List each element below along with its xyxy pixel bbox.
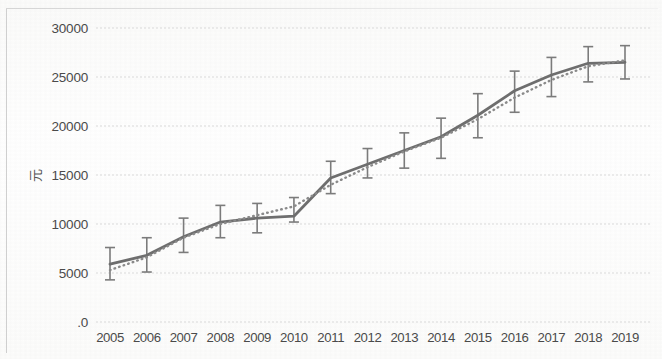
x-axis-tick-label: 2017 xyxy=(538,330,566,345)
x-axis-tick-label: 2018 xyxy=(574,330,602,345)
x-axis-tick-label: 2012 xyxy=(354,330,382,345)
y-axis-tick-label: 25000 xyxy=(0,70,88,85)
y-axis-tick-label: 30000 xyxy=(0,21,88,36)
chart-plot-area: 元 30000250002000015000100005000.0 200520… xyxy=(0,0,662,359)
chart-svg xyxy=(0,0,662,359)
y-axis-tick-label: 5000 xyxy=(0,266,88,281)
x-axis-tick-label: 2014 xyxy=(427,330,455,345)
x-axis-tick-label: 2010 xyxy=(280,330,308,345)
x-axis-tick-label: 2015 xyxy=(464,330,492,345)
x-axis-tick-label: 2016 xyxy=(501,330,529,345)
y-axis-tick-label: 15000 xyxy=(0,168,88,183)
error-bar xyxy=(289,198,299,223)
x-axis-tick-label: 2008 xyxy=(206,330,234,345)
y-axis-tick-label: 10000 xyxy=(0,217,88,232)
x-axis-tick-label: 2011 xyxy=(317,330,344,345)
x-axis-tick-label: 2005 xyxy=(96,330,124,345)
x-axis-tick-label: 2009 xyxy=(243,330,271,345)
x-axis-tick-label: 2013 xyxy=(390,330,418,345)
x-axis-tick-label: 2006 xyxy=(133,330,161,345)
x-axis-tick-label: 2019 xyxy=(611,330,639,345)
y-axis-tick-label: .0 xyxy=(0,315,88,330)
y-axis-tick-label: 20000 xyxy=(0,119,88,134)
x-axis-tick-label: 2007 xyxy=(170,330,198,345)
series-line-mean xyxy=(110,62,625,264)
